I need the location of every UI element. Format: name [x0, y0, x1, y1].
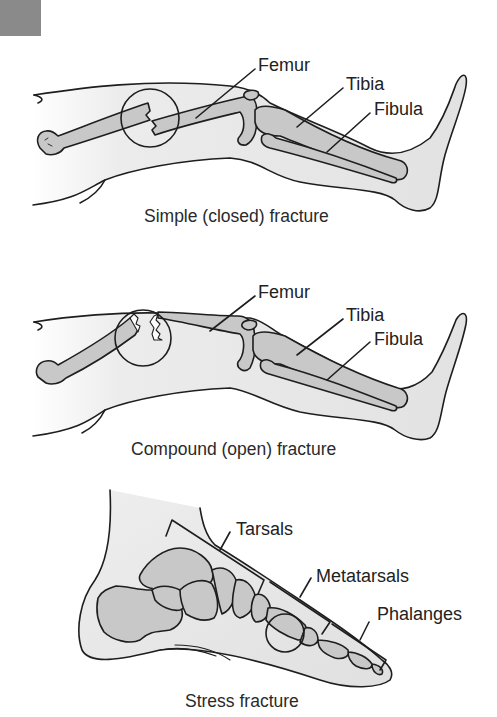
caption-stress-fracture: Stress fracture: [185, 693, 299, 711]
label-metatarsals: Metatarsals: [316, 567, 409, 585]
caption-compound-fracture: Compound (open) fracture: [131, 441, 336, 459]
patella: [244, 90, 259, 100]
simple-fracture-panel: [33, 69, 466, 211]
label-tibia: Tibia: [346, 75, 384, 93]
label-fibula: Fibula: [374, 330, 423, 348]
label-phalanges: Phalanges: [377, 605, 462, 623]
label-tarsals: Tarsals: [236, 520, 293, 538]
patella: [242, 320, 257, 330]
label-femur: Femur: [258, 56, 310, 74]
label-fibula: Fibula: [374, 100, 423, 118]
label-tibia: Tibia: [346, 306, 384, 324]
compound-fracture-panel: [33, 296, 466, 440]
caption-simple-fracture: Simple (closed) fracture: [144, 208, 329, 226]
label-femur: Femur: [258, 283, 310, 301]
